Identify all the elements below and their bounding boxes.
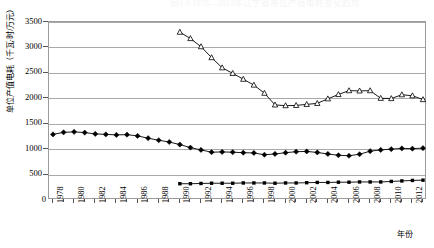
data-point-square: [379, 180, 382, 183]
x-axis-tick-label: 1994: [225, 186, 234, 203]
data-point-diamond: [146, 136, 151, 141]
data-point-triangle: [241, 76, 246, 81]
data-point-triangle: [198, 44, 203, 49]
data-point-diamond: [294, 149, 299, 154]
data-point-square: [199, 182, 202, 185]
x-axis-tick: [285, 199, 286, 203]
data-point-square: [231, 182, 234, 185]
series-triangle: [177, 29, 425, 107]
data-point-triangle: [399, 92, 404, 97]
series-square: [178, 178, 425, 185]
x-axis-tick: [94, 199, 95, 203]
x-axis-tick-label: 1996: [246, 186, 255, 203]
data-point-square: [326, 181, 329, 184]
chart-title: 图4-3 1978—2013年辽宁省单位产值电耗变化趋势: [105, 0, 425, 9]
chart-figure: 图4-3 1978—2013年辽宁省单位产值电耗变化趋势 单位产值电耗（千瓦·时…: [0, 0, 434, 248]
data-point-square: [189, 182, 192, 185]
x-axis-tick: [411, 199, 412, 203]
data-point-diamond: [325, 151, 330, 156]
data-point-diamond: [61, 130, 66, 135]
x-axis-tick-label: 2000: [288, 186, 297, 203]
data-point-triangle: [262, 90, 267, 95]
data-point-triangle: [230, 70, 235, 75]
x-axis-title: 年份: [397, 228, 413, 239]
data-point-diamond: [135, 133, 140, 138]
x-axis-tick-label: 1992: [204, 186, 213, 203]
data-point-triangle: [378, 95, 383, 100]
data-point-triangle: [251, 82, 256, 87]
data-point-diamond: [410, 146, 415, 151]
data-point-diamond: [93, 131, 98, 136]
data-point-square: [368, 180, 371, 183]
x-axis-tick: [327, 199, 328, 203]
x-axis-tick: [200, 199, 201, 203]
y-axis-tick-label: 2000: [2, 93, 42, 102]
x-axis-tick-label: 1978: [56, 186, 65, 203]
data-point-triangle: [346, 88, 351, 93]
data-point-diamond: [251, 150, 256, 155]
x-axis-tick: [179, 199, 180, 203]
data-point-square: [294, 181, 297, 184]
data-point-diamond: [230, 150, 235, 155]
x-axis-tick: [242, 199, 243, 203]
data-point-diamond: [156, 138, 161, 143]
data-point-square: [316, 181, 319, 184]
data-point-diamond: [283, 150, 288, 155]
data-point-square: [220, 182, 223, 185]
x-axis-tick: [390, 199, 391, 203]
x-axis-tick-label: 2010: [394, 186, 403, 203]
data-point-diamond: [177, 142, 182, 147]
x-axis-tick-label: 1980: [77, 186, 86, 203]
y-axis-tick-label: 1500: [2, 118, 42, 127]
data-point-diamond: [420, 146, 425, 151]
data-point-diamond: [82, 130, 87, 135]
data-point-square: [178, 182, 181, 185]
x-axis-tick-label: 2002: [309, 186, 318, 203]
data-point-square: [210, 182, 213, 185]
data-point-square: [284, 181, 287, 184]
data-point-square: [273, 182, 276, 185]
data-point-diamond: [346, 153, 351, 158]
x-axis-tick: [221, 199, 222, 203]
data-point-diamond: [103, 132, 108, 137]
y-axis-tick-label: 3500: [2, 17, 42, 26]
data-point-square: [400, 179, 403, 182]
series-layer: [49, 22, 427, 200]
x-axis-tick-label: 1984: [119, 186, 128, 203]
data-point-square: [421, 178, 424, 181]
data-point-triangle: [177, 29, 182, 34]
x-axis-tick: [369, 199, 370, 203]
data-point-square: [411, 179, 414, 182]
y-axis-tick-label: 1000: [2, 144, 42, 153]
data-point-diamond: [368, 149, 373, 154]
data-point-diamond: [315, 150, 320, 155]
series-line: [180, 32, 423, 105]
data-point-diamond: [357, 152, 362, 157]
x-axis-tick-label: 1986: [140, 186, 149, 203]
data-point-triangle: [188, 36, 193, 41]
data-point-diamond: [399, 146, 404, 151]
data-point-diamond: [378, 147, 383, 152]
data-point-diamond: [336, 153, 341, 158]
data-point-diamond: [209, 150, 214, 155]
data-point-square: [263, 181, 266, 184]
x-axis-tick: [115, 199, 116, 203]
data-point-diamond: [241, 150, 246, 155]
x-axis-tick-label: 1988: [161, 186, 170, 203]
data-point-square: [358, 180, 361, 183]
x-axis-tick: [348, 199, 349, 203]
y-axis-tick-label: 2500: [2, 67, 42, 76]
x-axis-tick-label: 1990: [182, 186, 191, 203]
data-point-square: [252, 181, 255, 184]
data-point-diamond: [304, 149, 309, 154]
data-point-diamond: [188, 145, 193, 150]
data-point-square: [242, 181, 245, 184]
data-point-diamond: [124, 132, 129, 137]
x-axis-tick-label: 2004: [330, 186, 339, 203]
x-axis-tick-label: 2006: [352, 186, 361, 203]
data-point-diamond: [50, 132, 55, 137]
y-axis-tick-label: 3000: [2, 42, 42, 51]
x-axis-tick: [73, 199, 74, 203]
data-point-diamond: [389, 147, 394, 152]
y-axis-tick-label: 500: [2, 169, 42, 178]
